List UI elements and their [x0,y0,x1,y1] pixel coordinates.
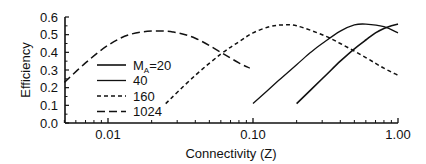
y-tick-label: 0.4 [40,45,58,60]
x-axis-label: Connectivity (Z) [185,146,276,161]
legend-item-40: 40 [97,73,147,88]
x-tick-label: 0.10 [240,127,265,142]
y-tick-label: 0.0 [40,116,58,131]
plot-lines [64,24,398,104]
y-axis-label: Efficiency [18,42,33,98]
legend-label: 160 [133,89,155,104]
y-tick-label: 0.5 [40,27,58,42]
x-tick-label: 0.01 [95,127,120,142]
series-line-160 [166,25,398,104]
legend-item-160: 160 [97,89,155,104]
legend: MA=20401601024 [97,58,171,120]
legend-label: 1024 [133,104,162,119]
y-tick-label: 0.6 [40,10,58,25]
axes: 0.00.10.20.30.40.50.60.010.101.00 [40,10,411,143]
y-tick-label: 0.3 [40,63,58,78]
efficiency-vs-connectivity-chart: 0.00.10.20.30.40.50.60.010.101.00 MA=204… [0,0,426,164]
legend-label: 40 [133,73,147,88]
legend-item-20: MA=20 [97,58,171,75]
series-line-20 [297,24,398,104]
y-tick-label: 0.1 [40,98,58,113]
legend-label: MA=20 [133,58,171,75]
legend-item-1024: 1024 [97,104,162,119]
x-tick-label: 1.00 [385,127,410,142]
y-tick-label: 0.2 [40,80,58,95]
